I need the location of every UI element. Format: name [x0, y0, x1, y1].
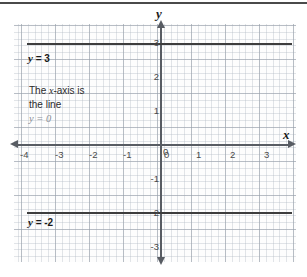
note-line1-suffix: -axis is: [53, 85, 84, 96]
y-tick-label-origin: 0: [163, 146, 168, 157]
x-tick-label: -2: [89, 149, 97, 160]
note-line1-prefix: The: [29, 85, 49, 96]
x-tick-label: 1: [196, 149, 201, 160]
y-tick-label: -1: [148, 173, 159, 184]
x-axis: [16, 144, 290, 146]
x-axis-left-arrow-icon: [10, 140, 18, 148]
y-tick-label: -3: [148, 241, 159, 252]
x-tick-label: -1: [123, 149, 131, 160]
x-axis-label: x: [283, 127, 290, 143]
y-axis-label: y: [156, 6, 162, 22]
y-tick-label: 3: [148, 37, 159, 48]
x-axis-note: The x-axis is the line y = 0: [29, 84, 85, 126]
top-divider-rule: [0, 2, 307, 4]
x-tick-label: -3: [55, 149, 63, 160]
y-tick-label: 1: [148, 105, 159, 116]
note-line-3-equation: y = 0: [29, 112, 85, 126]
line-y-equals-negative-2: [27, 212, 292, 214]
x-tick-label: 2: [230, 149, 235, 160]
label-y3-rest: = 3: [33, 53, 50, 64]
label-y-equals-3: y = 3: [28, 52, 50, 64]
y-axis: [160, 26, 162, 260]
y-tick-label: -2: [148, 207, 159, 218]
line-y-equals-3: [27, 43, 292, 45]
note-line-2: the line: [29, 98, 85, 112]
y-axis-down-arrow-icon: [157, 257, 165, 265]
label-yneg2-rest: = -2: [33, 217, 53, 228]
label-y-equals-negative-2: y = -2: [28, 216, 53, 228]
coordinate-grid: [14, 24, 296, 262]
graph-screenshot: y x -4 -3 -2 -1 0 1 2 3 3 2 1 0 -1 -2 -3…: [0, 0, 307, 277]
x-tick-label: -4: [20, 149, 28, 160]
x-tick-label: 3: [264, 149, 269, 160]
y-tick-label: 2: [148, 71, 159, 82]
note-line-1: The x-axis is: [29, 84, 85, 98]
